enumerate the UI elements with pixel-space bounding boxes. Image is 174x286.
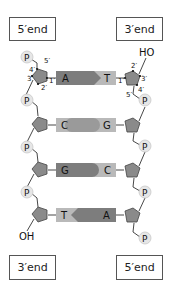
svg-text:5′: 5′ bbox=[44, 57, 50, 65]
svg-text:3′: 3′ bbox=[141, 75, 147, 83]
svg-text:4′: 4′ bbox=[138, 86, 144, 94]
base-right-label: G bbox=[103, 120, 111, 131]
base-left-label: T bbox=[60, 210, 68, 221]
sugar-pentagon-icon bbox=[125, 71, 140, 85]
svg-text:5′: 5′ bbox=[126, 91, 132, 99]
phosphate-icon: P bbox=[21, 186, 33, 198]
phosphate-icon: P bbox=[139, 94, 151, 106]
phosphate-icon: P bbox=[139, 232, 151, 244]
sugar-pentagon-icon bbox=[32, 117, 47, 132]
svg-text:3′: 3′ bbox=[27, 75, 33, 83]
sugar-pentagon-icon bbox=[32, 207, 47, 222]
sugar-pentagon-icon bbox=[125, 208, 140, 222]
svg-text:P: P bbox=[24, 96, 30, 106]
phosphate-icon: P bbox=[21, 51, 33, 63]
base-left-label: G bbox=[61, 165, 69, 176]
svg-text:P: P bbox=[24, 53, 30, 63]
svg-text:4′: 4′ bbox=[29, 66, 35, 74]
svg-text:1′: 1′ bbox=[49, 77, 55, 85]
base-pair-1: A T bbox=[48, 71, 124, 85]
hydroxyl-top-right: HO bbox=[139, 47, 155, 58]
base-right-label: T bbox=[103, 73, 111, 84]
hydroxyl-bottom-left: OH bbox=[19, 231, 34, 242]
svg-text:P: P bbox=[142, 188, 148, 198]
phosphate-icon: P bbox=[21, 94, 33, 106]
svg-text:1′: 1′ bbox=[118, 77, 124, 85]
phosphate-icon: P bbox=[21, 141, 33, 153]
sugar-pentagon-icon bbox=[32, 162, 47, 177]
svg-text:P: P bbox=[24, 143, 30, 153]
phosphate-icon: P bbox=[139, 140, 151, 152]
base-pair-3: G C bbox=[48, 163, 124, 177]
phosphate-icon: P bbox=[139, 186, 151, 198]
svg-text:P: P bbox=[24, 188, 30, 198]
svg-text:2′: 2′ bbox=[41, 84, 47, 92]
sugar-pentagon-icon bbox=[125, 118, 140, 132]
base-pair-4: T A bbox=[48, 208, 124, 222]
base-pair-2: C G bbox=[48, 118, 124, 132]
base-right-label: C bbox=[104, 165, 111, 176]
svg-text:P: P bbox=[142, 96, 148, 106]
base-left-label: C bbox=[61, 120, 68, 131]
base-right-label: A bbox=[103, 210, 110, 221]
svg-text:P: P bbox=[142, 234, 148, 244]
sugar-pentagon-icon bbox=[125, 163, 140, 177]
dna-diagram: A T C G G C T A bbox=[0, 0, 174, 286]
base-left-label: A bbox=[62, 73, 69, 84]
svg-text:P: P bbox=[142, 142, 148, 152]
svg-text:2′: 2′ bbox=[131, 62, 137, 70]
